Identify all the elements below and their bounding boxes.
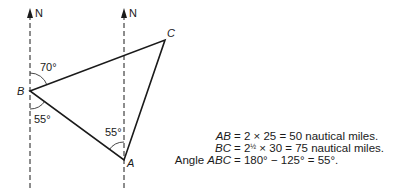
angle-arc-a-55 xyxy=(109,142,124,150)
north-line-b: N xyxy=(27,7,43,188)
equation-angle-rhs: = 180° − 125° = 55°. xyxy=(234,155,338,166)
angle-label-b-70: 70° xyxy=(40,61,57,73)
angle-arc-b-70 xyxy=(30,73,47,85)
vertex-label-c: C xyxy=(167,27,175,39)
vertex-label-b: B xyxy=(17,85,24,97)
north-arrow-icon xyxy=(121,8,127,18)
angle-label-a-55: 55° xyxy=(105,126,122,138)
equation-bc-rhs-post: × 30 = 75 nautical miles. xyxy=(256,142,384,154)
north-arrow-icon xyxy=(27,8,33,18)
equation-bc-lhs: BC xyxy=(215,142,231,154)
north-label-a: N xyxy=(129,7,137,19)
equation-angle-prefix: Angle xyxy=(175,154,208,166)
equation-angle-lhs: ABC xyxy=(207,154,231,166)
equation-bc-rhs-pre: = 2 xyxy=(234,142,250,154)
vertex-label-a: A xyxy=(126,157,134,169)
triangle-abc xyxy=(30,40,165,160)
equation-ab-rhs: = 2 × 25 = 50 nautical miles. xyxy=(234,131,378,142)
angle-label-b-55: 55° xyxy=(34,113,51,125)
north-label-b: N xyxy=(35,7,43,19)
equation-ab-lhs: AB xyxy=(216,130,231,142)
angle-arc-b-55 xyxy=(30,101,45,109)
